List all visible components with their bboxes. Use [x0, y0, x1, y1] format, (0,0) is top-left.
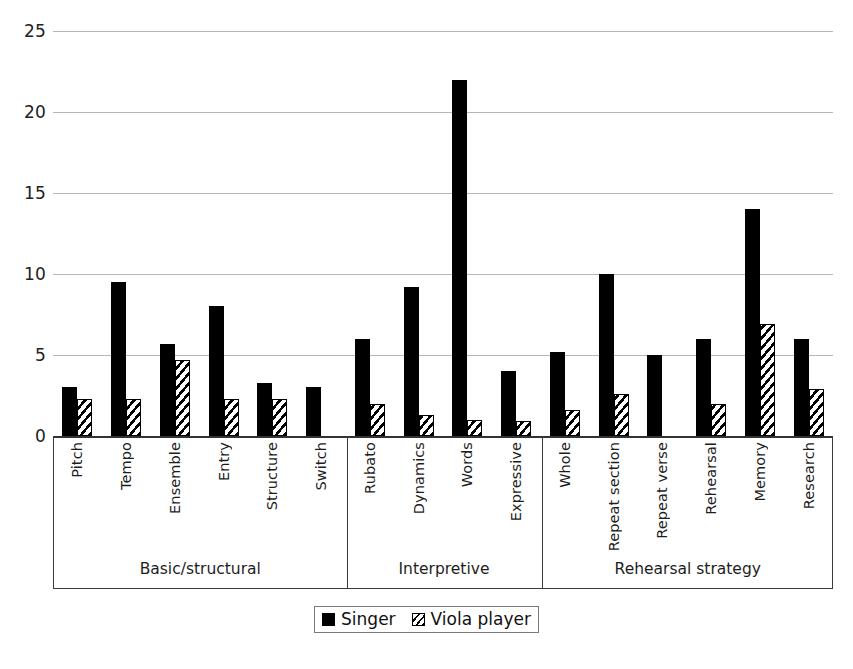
- legend-label-singer: Singer: [341, 609, 396, 629]
- category-label-words: Words: [459, 442, 475, 487]
- group-separator-1: [347, 436, 348, 588]
- bar-singer-14[interactable]: [745, 209, 760, 436]
- bar-pair-rehearsal[interactable]: [687, 31, 736, 436]
- category-label-research: Research: [801, 442, 817, 509]
- y-tick-20: 20: [24, 102, 46, 122]
- bar-pair-expressive[interactable]: [492, 31, 541, 436]
- bar-singer-5[interactable]: [306, 387, 321, 436]
- bar-singer-12[interactable]: [647, 355, 662, 436]
- bar-viola-player-1[interactable]: [126, 399, 141, 436]
- category-label-memory: Memory: [752, 442, 768, 502]
- plot-area: [53, 31, 833, 436]
- bar-viola-player-14[interactable]: [760, 324, 775, 436]
- bar-pair-ensemble[interactable]: [151, 31, 200, 436]
- bar-pair-whole[interactable]: [541, 31, 590, 436]
- legend: Singer Viola player: [0, 606, 853, 633]
- legend-swatch-singer-icon: [322, 613, 335, 626]
- bar-singer-15[interactable]: [794, 339, 809, 436]
- bar-pair-switch[interactable]: [297, 31, 346, 436]
- bar-viola-player-0[interactable]: [77, 399, 92, 436]
- bar-viola-player-11[interactable]: [614, 394, 629, 436]
- legend-item-singer[interactable]: Singer: [322, 609, 396, 629]
- group-label-2: Rehearsal strategy: [542, 560, 835, 578]
- category-label-pitch: Pitch: [69, 442, 85, 478]
- bar-viola-player-9[interactable]: [516, 421, 531, 436]
- y-tick-5: 5: [35, 345, 46, 365]
- bar-viola-player-4[interactable]: [272, 399, 287, 436]
- bar-group-2: [541, 31, 834, 436]
- y-tick-25: 25: [24, 21, 46, 41]
- bar-singer-10[interactable]: [550, 352, 565, 436]
- category-label-expressive: Expressive: [508, 442, 524, 521]
- y-tick-15: 15: [24, 183, 46, 203]
- bar-viola-player-10[interactable]: [565, 410, 580, 436]
- category-label-dynamics: Dynamics: [411, 442, 427, 514]
- bar-pair-repeat-section[interactable]: [589, 31, 638, 436]
- bar-singer-0[interactable]: [62, 387, 77, 436]
- bar-group-0: [53, 31, 346, 436]
- y-tick-10: 10: [24, 264, 46, 284]
- bar-pair-structure[interactable]: [248, 31, 297, 436]
- legend-swatch-viola-icon: [412, 613, 425, 626]
- category-label-tempo: Tempo: [118, 442, 134, 490]
- bar-singer-6[interactable]: [355, 339, 370, 436]
- group-separator-2: [542, 436, 543, 588]
- category-label-repeat-section: Repeat section: [606, 442, 622, 551]
- group-label-1: Interpretive: [347, 560, 542, 578]
- category-label-repeat-verse: Repeat verse: [654, 442, 670, 539]
- bar-pair-research[interactable]: [784, 31, 833, 436]
- legend-item-viola-player[interactable]: Viola player: [412, 609, 531, 629]
- bar-singer-13[interactable]: [696, 339, 711, 436]
- bar-viola-player-7[interactable]: [419, 415, 434, 436]
- bar-pair-tempo[interactable]: [102, 31, 151, 436]
- bar-singer-8[interactable]: [452, 80, 467, 436]
- bar-viola-player-6[interactable]: [370, 404, 385, 436]
- bar-pair-repeat-verse[interactable]: [638, 31, 687, 436]
- bar-viola-player-15[interactable]: [809, 389, 824, 436]
- category-label-rubato: Rubato: [362, 442, 378, 494]
- bar-pair-pitch[interactable]: [53, 31, 102, 436]
- category-label-entry: Entry: [216, 442, 232, 481]
- bar-singer-3[interactable]: [209, 306, 224, 436]
- category-label-switch: Switch: [313, 442, 329, 491]
- bar-singer-9[interactable]: [501, 371, 516, 436]
- bar-pair-rubato[interactable]: [346, 31, 395, 436]
- group-label-0: Basic/structural: [54, 560, 347, 578]
- bar-singer-4[interactable]: [257, 383, 272, 436]
- bar-singer-1[interactable]: [111, 282, 126, 436]
- bar-viola-player-8[interactable]: [467, 420, 482, 436]
- category-label-whole: Whole: [557, 442, 573, 488]
- bar-pair-words[interactable]: [443, 31, 492, 436]
- bar-pair-memory[interactable]: [736, 31, 785, 436]
- bar-singer-2[interactable]: [160, 344, 175, 436]
- bar-pair-entry[interactable]: [199, 31, 248, 436]
- y-tick-0: 0: [35, 426, 46, 446]
- category-label-ensemble: Ensemble: [167, 442, 183, 514]
- bar-singer-11[interactable]: [599, 274, 614, 436]
- bar-viola-player-3[interactable]: [224, 399, 239, 436]
- category-label-rehearsal: Rehearsal: [703, 442, 719, 515]
- y-axis: 25 20 15 10 5 0: [0, 0, 46, 669]
- bar-singer-7[interactable]: [404, 287, 419, 436]
- bar-pair-dynamics[interactable]: [394, 31, 443, 436]
- bar-viola-player-13[interactable]: [711, 404, 726, 436]
- bar-group-1: [346, 31, 541, 436]
- bar-chart: 25 20 15 10 5 0 Basic/structuralInterpre…: [0, 0, 853, 669]
- legend-label-viola-player: Viola player: [431, 609, 531, 629]
- category-label-structure: Structure: [264, 442, 280, 510]
- category-label-box: Basic/structuralInterpretiveRehearsal st…: [53, 436, 833, 589]
- bar-viola-player-2[interactable]: [175, 360, 190, 436]
